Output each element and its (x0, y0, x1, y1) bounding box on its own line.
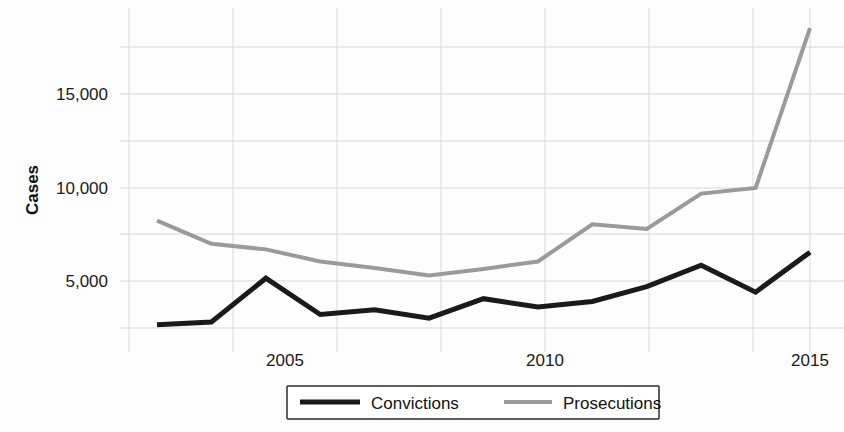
series-line-prosecutions (157, 28, 810, 275)
y-tick-label-5000: 5,000 (65, 272, 108, 291)
y-axis: Cases 15,000 10,000 5,000 (23, 85, 108, 291)
series-group (157, 28, 810, 325)
line-chart: Cases 15,000 10,000 5,000 2005 2010 2015… (0, 0, 844, 432)
legend: Convictions Prosecutions (287, 386, 661, 419)
y-tick-label-15000: 15,000 (56, 85, 108, 104)
x-tick-label-2005: 2005 (266, 351, 304, 370)
x-axis: 2005 2010 2015 (266, 351, 829, 370)
chart-canvas: Cases 15,000 10,000 5,000 2005 2010 2015… (0, 0, 844, 432)
x-tick-label-2015: 2015 (791, 351, 829, 370)
series-line-convictions (157, 252, 810, 325)
legend-label-prosecutions: Prosecutions (563, 394, 661, 413)
legend-label-convictions: Convictions (371, 394, 459, 413)
horizontal-gridlines (120, 47, 844, 328)
y-tick-label-10000: 10,000 (56, 179, 108, 198)
vertical-gridlines (129, 8, 810, 352)
x-tick-label-2010: 2010 (526, 351, 564, 370)
y-axis-title: Cases (23, 165, 42, 215)
